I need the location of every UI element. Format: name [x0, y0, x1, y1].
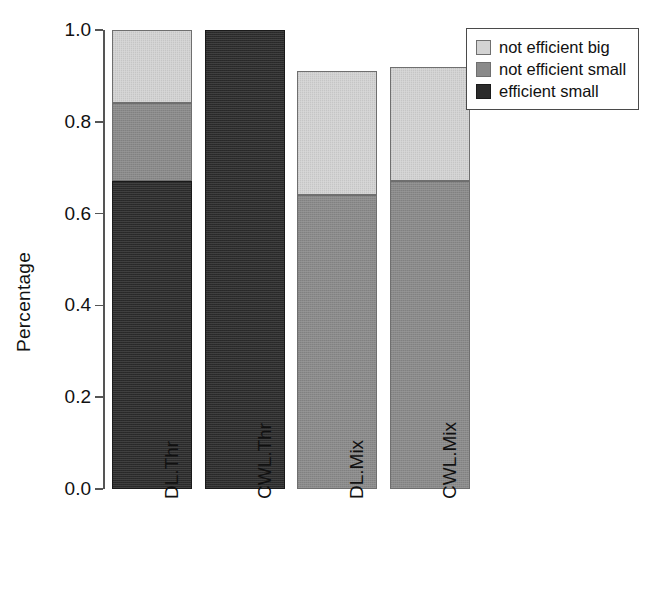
- y-tick-label: 1.0: [65, 19, 91, 41]
- plot-area: [104, 30, 500, 489]
- legend-swatch: [476, 84, 491, 99]
- stacked-bar: [390, 30, 470, 489]
- y-tick-label: 0.0: [65, 478, 91, 500]
- y-tick-label: 0.2: [65, 386, 91, 408]
- y-tick-mark: [95, 29, 103, 31]
- y-tick-label: 0.4: [65, 294, 91, 316]
- x-tick-label: CWL.Thr: [254, 423, 276, 499]
- x-tick-label: DL.Mix: [346, 440, 368, 499]
- y-tick-label: 0.8: [65, 111, 91, 133]
- bar-segment: [390, 67, 470, 182]
- y-tick-mark: [95, 305, 103, 307]
- chart-canvas: Percentage 0.00.20.40.60.81.0 DL.ThrCWL.…: [0, 0, 650, 604]
- legend-item: not efficient big: [476, 36, 626, 58]
- legend-swatch: [476, 62, 491, 77]
- y-axis-label: Percentage: [0, 0, 48, 604]
- y-tick-mark: [95, 213, 103, 215]
- legend-label: not efficient small: [499, 61, 626, 78]
- bar-segment: [112, 30, 192, 103]
- legend-swatch: [476, 40, 491, 55]
- legend-item: efficient small: [476, 80, 626, 102]
- bar-segment: [205, 30, 285, 489]
- x-tick-label: DL.Thr: [161, 441, 183, 499]
- y-tick-mark: [95, 488, 103, 490]
- legend-label: not efficient big: [499, 39, 610, 56]
- bar-segment: [112, 103, 192, 181]
- legend: not efficient bignot efficient smalleffi…: [466, 28, 639, 110]
- stacked-bar: [297, 30, 377, 489]
- bar-segment: [297, 71, 377, 195]
- y-tick-label: 0.6: [65, 203, 91, 225]
- x-tick-label: CWL.Mix: [439, 422, 461, 499]
- stacked-bar: [112, 30, 192, 489]
- y-tick-mark: [95, 121, 103, 123]
- stacked-bar: [205, 30, 285, 489]
- legend-item: not efficient small: [476, 58, 626, 80]
- legend-label: efficient small: [499, 83, 599, 100]
- y-tick-mark: [95, 396, 103, 398]
